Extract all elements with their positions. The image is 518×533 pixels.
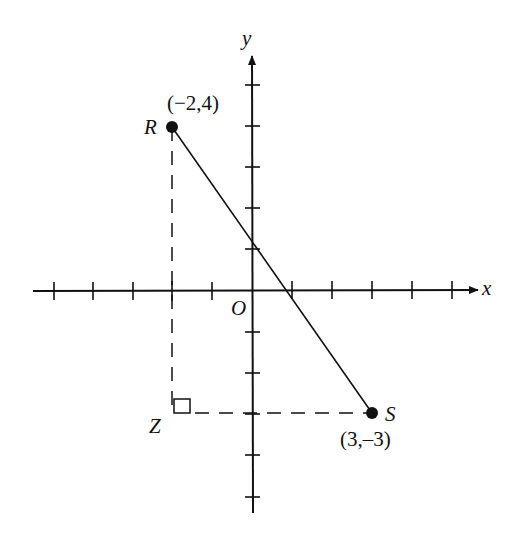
coordinate-plane: y x O (−2,4) R S (3,–3) Z	[0, 0, 518, 533]
y-axis-label: y	[240, 26, 252, 50]
point-R	[166, 121, 178, 133]
point-S	[366, 407, 378, 419]
right-angle-marker	[174, 399, 190, 413]
x-axis-label: x	[481, 276, 492, 300]
point-Z-label: Z	[149, 414, 161, 438]
point-S-label: S	[385, 402, 396, 426]
point-S-coords: (3,–3)	[340, 427, 391, 451]
point-R-label: R	[143, 115, 157, 139]
point-R-coords: (−2,4)	[167, 91, 219, 115]
origin-label: O	[231, 296, 246, 320]
x-axis	[33, 281, 478, 301]
y-axis	[245, 56, 260, 513]
segment-RS	[172, 127, 372, 413]
